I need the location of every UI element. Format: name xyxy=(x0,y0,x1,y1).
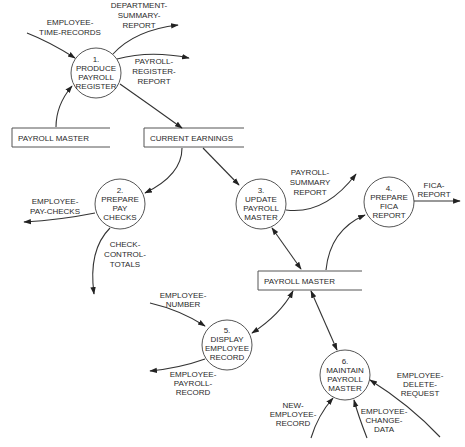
flow-label-line: SUMMARY- xyxy=(118,11,161,20)
store-label: CURRENT EARNINGS xyxy=(150,134,233,143)
process-6-maintain-payroll-master: 6. MAINTAIN PAYROLL MASTER xyxy=(320,350,370,400)
flow-label-line: REPORT xyxy=(417,190,450,199)
process-label-line: MASTER xyxy=(244,213,278,222)
data-store-payroll-master-1: PAYROLL MASTER xyxy=(12,128,110,147)
flow-arrow-payroll-master-to-4 xyxy=(326,215,365,270)
flow-label-line: CHECK- xyxy=(110,240,141,249)
flow-label-line: EMPLOYEE- xyxy=(361,407,408,416)
process-label-line: REPORT xyxy=(372,211,405,220)
flow-arrow-5-payroll-master-bidirectional xyxy=(252,291,293,333)
flow-label-line: PAYROLL- xyxy=(135,57,174,66)
process-label-line: PRODUCE xyxy=(76,64,116,73)
process-2-prepare-pay-checks: 2. PREPARE PAY CHECKS xyxy=(95,179,145,229)
flow-label-line: PAY-CHECKS xyxy=(30,207,80,216)
process-5-display-employee-record: 5. DISPLAY EMPLOYEE RECORD xyxy=(202,320,252,370)
flow-label-line: REPORT xyxy=(122,21,155,30)
process-number: 1. xyxy=(93,55,100,64)
flow-label-new-employee-record: NEW- EMPLOYEE- RECORD xyxy=(270,401,317,428)
process-label-line: PREPARE xyxy=(101,195,139,204)
process-4-prepare-fica-report: 4. PREPARE FICA REPORT xyxy=(364,177,414,227)
flow-label-line: NUMBER xyxy=(166,300,201,309)
process-number: 3. xyxy=(258,186,265,195)
process-label-line: PAYROLL xyxy=(243,204,279,213)
flow-label-line: REPORT xyxy=(293,188,326,197)
process-1-produce-payroll-register: 1. PRODUCE PAYROLL REGISTER xyxy=(71,48,121,98)
flow-label-line: SUMMARY xyxy=(290,178,331,187)
process-label-line: PAYROLL xyxy=(78,73,114,82)
process-number: 5. xyxy=(224,326,231,335)
flow-label-line: REQUEST xyxy=(401,389,440,398)
data-flow-diagram: PAYROLL MASTER CURRENT EARNINGS PAYROLL … xyxy=(0,0,465,447)
flow-label-department-summary-report: DEPARTMENT- SUMMARY- REPORT xyxy=(111,1,168,30)
flow-arrow-6-payroll-master-bidirectional xyxy=(311,291,337,350)
flow-label-line: DATA xyxy=(374,425,395,434)
flow-label-payroll-summary-report: PAYROLL- SUMMARY REPORT xyxy=(290,168,331,197)
flow-label-line: NEW- xyxy=(282,401,304,410)
process-label-line: MASTER xyxy=(328,384,362,393)
flow-label-check-control-totals: CHECK- CONTROL- TOTALS xyxy=(104,240,146,269)
process-label-line: CHECKS xyxy=(103,213,136,222)
store-label: PAYROLL MASTER xyxy=(18,134,89,143)
flow-label-line: RECORD xyxy=(176,388,211,397)
flow-arrow-payroll-master-to-1 xyxy=(56,86,72,127)
flow-label-payroll-register-report: PAYROLL- REGISTER- REPORT xyxy=(132,57,176,86)
process-label-line: MAINTAIN xyxy=(326,366,364,375)
flow-label-employee-payroll-record: EMPLOYEE- PAYROLL- RECORD xyxy=(170,370,217,397)
flow-label-fica-report: FICA- REPORT xyxy=(417,181,450,199)
flow-label-line: DELETE- xyxy=(403,380,437,389)
flow-label-line: TIME-RECORDS xyxy=(39,28,101,37)
store-label: PAYROLL MASTER xyxy=(264,277,335,286)
flow-label-employee-time-records: EMPLOYEE- TIME-RECORDS xyxy=(39,18,101,37)
flow-arrow-current-earnings-to-3 xyxy=(203,148,239,185)
process-number: 2. xyxy=(117,186,124,195)
flow-label-line: EMPLOYEE- xyxy=(160,291,207,300)
flow-label-line: EMPLOYEE- xyxy=(47,18,94,27)
process-number: 6. xyxy=(342,357,349,366)
process-number: 4. xyxy=(386,184,393,193)
flow-arrow-3-payroll-master-bidirectional xyxy=(272,228,301,269)
process-label-line: REGISTER xyxy=(76,82,117,91)
flow-label-line: PAYROLL- xyxy=(174,379,213,388)
process-label-line: DISPLAY xyxy=(210,335,244,344)
process-label-line: RECORD xyxy=(210,353,245,362)
process-label-line: FICA xyxy=(380,202,399,211)
process-label-line: PAYROLL xyxy=(327,375,363,384)
process-label-line: PAY xyxy=(113,204,128,213)
flow-label-line: CHANGE- xyxy=(366,416,403,425)
flow-label-employee-change-data: EMPLOYEE- CHANGE- DATA xyxy=(361,407,408,434)
data-store-payroll-master-2: PAYROLL MASTER xyxy=(258,271,362,290)
data-store-current-earnings: CURRENT EARNINGS xyxy=(144,128,244,147)
flow-label-line: EMPLOYEE- xyxy=(270,410,317,419)
flow-label-line: PAYROLL- xyxy=(291,168,330,177)
flow-label-line: EMPLOYEE- xyxy=(397,371,444,380)
flow-label-employee-delete-request: EMPLOYEE- DELETE- REQUEST xyxy=(397,371,444,398)
flow-arrow-1-to-current-earnings xyxy=(120,84,182,128)
flow-arrow-current-earnings-to-2 xyxy=(145,148,182,193)
flow-label-employee-number: EMPLOYEE- NUMBER xyxy=(160,291,207,309)
flow-label-line: FICA- xyxy=(424,181,445,190)
flow-label-employee-pay-checks: EMPLOYEE- PAY-CHECKS xyxy=(30,197,80,216)
flow-label-line: REPORT xyxy=(137,77,170,86)
process-3-update-payroll-master: 3. UPDATE PAYROLL MASTER xyxy=(236,179,286,229)
process-label-line: UPDATE xyxy=(245,195,277,204)
flow-label-line: EMPLOYEE- xyxy=(170,370,217,379)
flow-label-line: RECORD xyxy=(276,419,311,428)
process-label-line: EMPLOYEE xyxy=(205,344,249,353)
flow-label-line: REGISTER- xyxy=(132,67,176,76)
process-label-line: PREPARE xyxy=(370,193,408,202)
flow-arrow-check-control-totals xyxy=(93,228,110,294)
flow-label-line: CONTROL- xyxy=(104,250,146,259)
flow-label-line: EMPLOYEE- xyxy=(32,197,79,206)
flow-label-line: TOTALS xyxy=(110,260,140,269)
flow-label-line: DEPARTMENT- xyxy=(111,1,168,10)
